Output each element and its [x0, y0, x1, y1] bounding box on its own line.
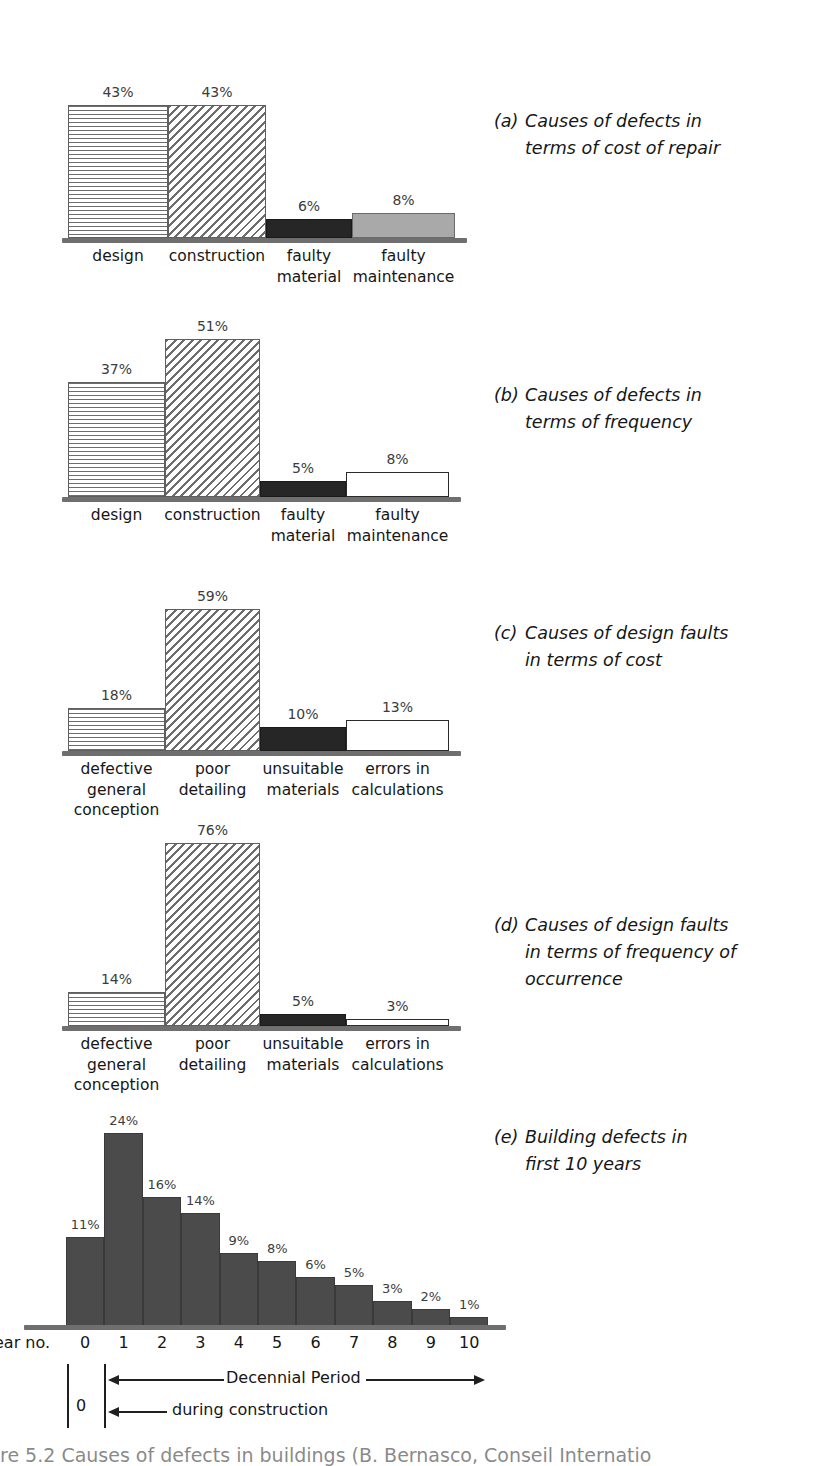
hist-bar-7	[335, 1285, 373, 1325]
bar-b-1	[165, 339, 260, 497]
category-label-line: maintenance	[347, 526, 449, 547]
bar-value-label: 43%	[201, 84, 232, 100]
category-label-c-0: defectivegeneralconception	[74, 759, 159, 821]
category-label-line: unsuitable	[262, 1034, 343, 1055]
axis-tick-1: 1	[119, 1333, 129, 1352]
panel-caption-e: (e)Building defects infirst 10 years	[494, 1124, 687, 1178]
category-label-b-0: design	[91, 505, 142, 526]
bar-value-label: 18%	[101, 687, 132, 703]
panel-caption-lines: Causes of defects interms of frequency	[525, 382, 702, 436]
bar-value-label: 5%	[292, 460, 314, 476]
category-label-line: errors in	[351, 1034, 443, 1055]
category-label-c-3: errors incalculations	[351, 759, 443, 800]
bar-a-0	[68, 105, 168, 238]
axis-baseline	[62, 238, 467, 243]
panel-caption-line: Causes of design faults	[525, 620, 728, 647]
arrow-head-left-decennial	[108, 1375, 119, 1385]
category-label-line: material	[277, 267, 342, 288]
category-label-line: faulty	[353, 246, 455, 267]
category-label-d-2: unsuitablematerials	[262, 1034, 343, 1075]
annotation-during-construction: during construction	[172, 1400, 328, 1419]
category-label-b-2: faultymaterial	[271, 505, 336, 546]
category-label-line: poor	[179, 759, 247, 780]
bar-value-label: 5%	[292, 993, 314, 1009]
category-label-line: material	[271, 526, 336, 547]
category-label-a-2: faultymaterial	[277, 246, 342, 287]
bar-c-2	[260, 727, 346, 751]
hist-value-label: 9%	[228, 1233, 249, 1248]
arrow-line-decennial-left	[119, 1379, 224, 1381]
category-label-line: defective	[74, 759, 159, 780]
hist-value-label: 6%	[305, 1257, 326, 1272]
hist-value-label: 8%	[267, 1241, 288, 1256]
panel-caption-d: (d)Causes of design faultsin terms of fr…	[494, 912, 736, 993]
bar-value-label: 51%	[197, 318, 228, 334]
panel-tag: (e)	[494, 1124, 518, 1151]
category-label-d-3: errors incalculations	[351, 1034, 443, 1075]
axis-tick-8: 8	[387, 1333, 397, 1352]
arrow-line-construction	[119, 1411, 167, 1413]
category-label-line: conception	[74, 800, 159, 821]
bar-d-3	[346, 1019, 449, 1026]
bar-b-0	[68, 382, 165, 497]
bar-value-label: 43%	[102, 84, 133, 100]
bar-value-label: 3%	[386, 998, 408, 1014]
hist-value-label: 1%	[459, 1297, 480, 1312]
arrow-head-right-decennial	[474, 1375, 485, 1385]
axis-title-year: ear no.	[0, 1333, 50, 1352]
panel-caption-line: in terms of cost	[525, 647, 728, 674]
category-label-a-0: design	[92, 246, 143, 267]
category-label-line: unsuitable	[262, 759, 343, 780]
category-label-line: detailing	[179, 780, 247, 801]
category-label-line: faulty	[271, 505, 336, 526]
category-label-line: maintenance	[353, 267, 455, 288]
axis-tick-5: 5	[272, 1333, 282, 1352]
panel-tag: (c)	[494, 620, 517, 647]
annotation-rule-right	[104, 1364, 106, 1428]
bar-d-2	[260, 1014, 346, 1026]
axis-baseline	[62, 497, 461, 502]
category-label-line: poor	[179, 1034, 247, 1055]
hist-value-label: 5%	[344, 1265, 365, 1280]
panel-caption-a: (a)Causes of defects interms of cost of …	[494, 108, 720, 162]
panel-caption-line: first 10 years	[525, 1151, 687, 1178]
panel-caption-lines: Building defects infirst 10 years	[525, 1124, 687, 1178]
bar-value-label: 13%	[382, 699, 413, 715]
hist-value-label: 24%	[109, 1113, 138, 1128]
axis-tick-3: 3	[195, 1333, 205, 1352]
bar-value-label: 59%	[197, 588, 228, 604]
bar-c-1	[165, 609, 260, 751]
hist-value-label: 14%	[186, 1193, 215, 1208]
annotation-decennial-period: Decennial Period	[226, 1368, 361, 1387]
axis-tick-4: 4	[234, 1333, 244, 1352]
bar-b-3	[346, 472, 449, 497]
category-label-line: errors in	[351, 759, 443, 780]
category-label-line: materials	[262, 780, 343, 801]
panel-caption-lines: Causes of design faultsin terms of cost	[525, 620, 728, 674]
panel-caption-line: in terms of frequency of	[525, 939, 736, 966]
hist-bar-3	[181, 1213, 219, 1325]
arrow-line-decennial-right	[366, 1379, 474, 1381]
axis-baseline	[62, 751, 461, 756]
arrow-head-left-construction	[108, 1407, 119, 1417]
panel-tag: (d)	[494, 912, 519, 939]
hist-value-label: 2%	[420, 1289, 441, 1304]
axis-tick-9: 9	[426, 1333, 436, 1352]
axis-tick-0: 0	[80, 1333, 90, 1352]
hist-value-label: 11%	[71, 1217, 100, 1232]
category-label-line: detailing	[179, 1055, 247, 1076]
bar-d-0	[68, 992, 165, 1026]
category-label-line: construction	[169, 246, 265, 267]
hist-bar-6	[296, 1277, 334, 1325]
hist-bar-1	[104, 1133, 142, 1325]
bar-a-3	[352, 213, 455, 238]
category-label-d-0: defectivegeneralconception	[74, 1034, 159, 1096]
figure-bottom-caption: re 5.2 Causes of defects in buildings (B…	[0, 1444, 651, 1466]
hist-bar-0	[66, 1237, 104, 1325]
hist-bar-10	[450, 1317, 488, 1325]
panel-tag: (a)	[494, 108, 518, 135]
category-label-line: general	[74, 780, 159, 801]
category-label-line: design	[91, 505, 142, 526]
bar-value-label: 8%	[392, 192, 414, 208]
